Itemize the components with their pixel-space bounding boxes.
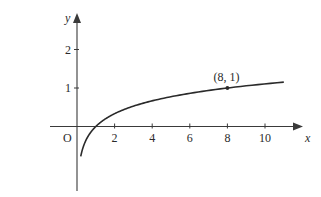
axes: xyO <box>50 11 311 191</box>
x-axis-label: x <box>304 131 311 145</box>
ticks: 24681012 <box>65 43 271 146</box>
x-tick-label: 6 <box>187 131 193 145</box>
curve-line <box>81 82 284 156</box>
x-tick-label: 8 <box>224 131 230 145</box>
x-tick-label: 2 <box>112 131 118 145</box>
y-tick-label: 2 <box>65 43 71 57</box>
point-label: (8, 1) <box>213 70 239 84</box>
log-graph: xyO 24681012 (8, 1) <box>0 0 321 197</box>
origin-label: O <box>63 131 72 145</box>
y-axis-arrow-icon <box>73 13 81 23</box>
y-tick-label: 1 <box>65 81 71 95</box>
x-tick-label: 10 <box>259 131 271 145</box>
chart-svg: xyO 24681012 (8, 1) <box>0 0 321 197</box>
y-axis-label: y <box>64 11 71 25</box>
x-axis-arrow-icon <box>293 123 303 131</box>
x-tick-label: 4 <box>149 131 155 145</box>
point-marker <box>226 86 230 90</box>
